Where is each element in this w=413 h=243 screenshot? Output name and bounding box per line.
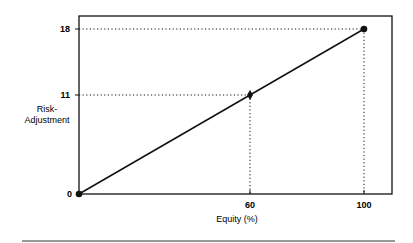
y-axis-label-line1: Risk- — [37, 104, 58, 114]
series-line — [79, 29, 364, 194]
x-tick-100: 100 — [356, 200, 371, 210]
x-axis-label: Equity (%) — [216, 214, 258, 224]
data-point-origin — [76, 191, 83, 198]
x-tick-60: 60 — [245, 200, 255, 210]
chart-svg: 18 11 0 Risk- Adjustment 60 100 Equity (… — [0, 0, 413, 243]
y-tick-18: 18 — [60, 24, 70, 34]
y-tick-0: 0 — [67, 189, 72, 199]
y-axis-label-line2: Adjustment — [24, 115, 70, 125]
y-tick-11: 11 — [60, 90, 70, 100]
data-point-100 — [361, 26, 368, 33]
data-point-60 — [247, 90, 253, 100]
